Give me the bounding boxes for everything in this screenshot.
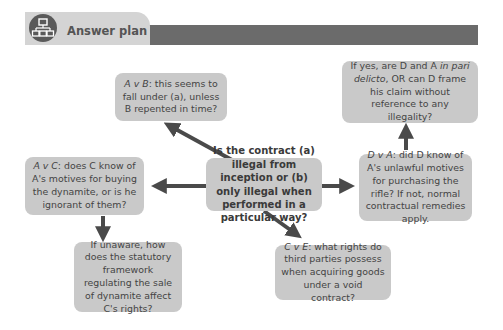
node-d-v-a-label: D v A [368, 149, 393, 160]
node-central-question: Is the contract (a) illegal from incepti… [206, 158, 322, 211]
node-c-v-e-label: C v E [284, 241, 308, 252]
node-d-v-a-text: : did D know of A's unlawful motives for… [366, 149, 466, 224]
node-a-v-c-label: A v C [33, 160, 57, 171]
node-in-pari: If yes, are D and A in pari delicto, OR … [342, 61, 478, 123]
node-a-v-b-label: A v B [124, 78, 148, 89]
node-unaware: If unaware, how does the statutory frame… [74, 242, 182, 312]
node-a-v-c: A v C: does C know of A's motives for bu… [25, 157, 144, 215]
node-a-v-b: A v B: this seems to fall under (a), unl… [115, 73, 227, 121]
node-d-v-a: D v A: did D know of A's unlawful motive… [359, 154, 472, 221]
node-c-v-e: C v E: what rights do third parties poss… [275, 245, 391, 300]
